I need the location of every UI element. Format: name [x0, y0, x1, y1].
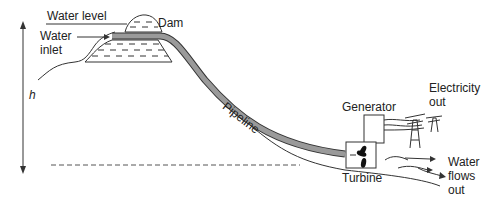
height-label: h	[29, 89, 36, 102]
electricity-label-1: Electricity	[429, 82, 480, 95]
hydro-diagram	[0, 0, 497, 203]
reservoir	[85, 40, 172, 62]
water-level-label: Water level	[47, 10, 107, 23]
dam-label: Dam	[158, 17, 183, 30]
generator-box	[364, 115, 384, 143]
pylon-icon	[405, 114, 442, 148]
generator-label: Generator	[342, 101, 396, 114]
water-inlet-label-2: inlet	[40, 44, 62, 57]
water-out-label-2: flows	[448, 170, 475, 183]
water-inlet-label-1: Water	[40, 30, 72, 43]
turbine-label: Turbine	[342, 172, 382, 185]
dam-mound	[125, 15, 162, 32]
water-out-label-1: Water	[448, 156, 480, 169]
electricity-label-2: out	[429, 96, 446, 109]
water-out-label-3: out	[448, 184, 465, 197]
hill-slope	[168, 40, 440, 186]
